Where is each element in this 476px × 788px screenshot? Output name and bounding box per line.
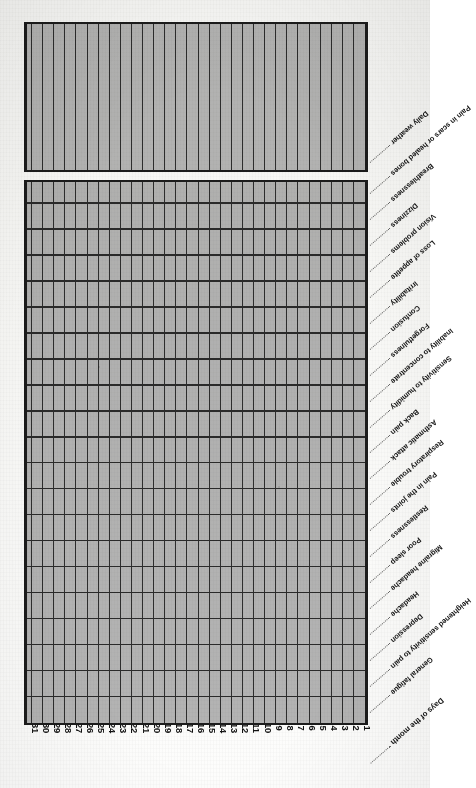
grid-column-line [98, 182, 99, 723]
grid-vertical-lines [27, 182, 365, 723]
grid-row-line [27, 202, 365, 204]
row-label-7: Pain in the joints [367, 226, 476, 535]
scan-speck [99, 367, 101, 369]
grid-row-line [27, 462, 365, 464]
grid-row-line [27, 618, 365, 620]
days-axis-title: Days of the month [367, 457, 476, 766]
grid-column-line [120, 182, 121, 723]
daily-weather-band[interactable] [24, 22, 368, 172]
grid-column-line [264, 182, 265, 723]
grid-column-line [142, 182, 143, 723]
grid-column-line [42, 182, 43, 723]
grid-column-line [64, 24, 65, 170]
grid-row-line [27, 306, 365, 308]
grid-row-line [27, 280, 365, 282]
grid-row-line [27, 566, 365, 568]
row-label-daily-weather: Daily weather [367, 0, 476, 166]
row-label-11: Sensitivity to humidity [367, 122, 476, 431]
grid-column-line [75, 182, 76, 723]
row-label-4: Migraine headache [367, 304, 476, 613]
symptom-grid-area [24, 180, 368, 725]
grid-column-line [198, 24, 199, 170]
grid-column-line [242, 182, 243, 723]
row-label-16: Loss of appetite [367, 0, 476, 301]
grid-row-line [27, 670, 365, 672]
grid-column-line [275, 24, 276, 170]
grid-row-line [27, 436, 365, 438]
grid-column-line [75, 24, 76, 170]
grid-column-line [53, 182, 54, 723]
symptom-grid[interactable] [24, 180, 368, 725]
grid-row-line [27, 410, 365, 412]
grid-column-line [209, 24, 210, 170]
grid-column-line [253, 182, 254, 723]
grid-column-line [175, 182, 176, 723]
row-label-20: Pain in scars or healed bones [367, 0, 476, 197]
grid-column-line [153, 24, 154, 170]
grid-column-line [109, 182, 110, 723]
grid-column-line [353, 24, 354, 170]
grid-horizontal-lines [27, 182, 365, 723]
grid-row-line [27, 696, 365, 698]
grid-column-line [297, 182, 298, 723]
grid-column-line [87, 24, 88, 170]
grid-row-line [27, 358, 365, 360]
grid-column-line [331, 24, 332, 170]
grid-row-line [27, 514, 365, 516]
grid-column-line [87, 182, 88, 723]
grid-row-line [27, 332, 365, 334]
grid-column-line [131, 182, 132, 723]
row-label-14: Confusion [367, 44, 476, 353]
grid-column-line [31, 24, 32, 170]
grid-column-line [175, 24, 176, 170]
grid-column-line [98, 24, 99, 170]
grid-column-line [253, 24, 254, 170]
grid-column-line [309, 182, 310, 723]
grid-column-line [42, 24, 43, 170]
row-label-19: Breathlessness [367, 0, 476, 223]
row-label-18: Dizziness [367, 0, 476, 249]
grid-column-line [242, 24, 243, 170]
row-label-0: General fatigue [367, 407, 476, 716]
row-label-13: Forgetfulness [367, 70, 476, 379]
grid-column-line [131, 24, 132, 170]
row-label-2: Depression [367, 355, 476, 664]
grid-row-line [27, 254, 365, 256]
grid-column-line [286, 182, 287, 723]
grid-column-line [198, 182, 199, 723]
grid-column-line [320, 24, 321, 170]
row-label-5: Poor sleep [367, 278, 476, 587]
grid-column-line [353, 182, 354, 723]
row-label-9: Asthmatic attack [367, 174, 476, 483]
grid-row-line [27, 228, 365, 230]
row-label-15: Irritability [367, 18, 476, 327]
row-label-12: Inability to concentrate [367, 96, 476, 405]
row-label-10: Back pain [367, 148, 476, 457]
grid-column-line [186, 24, 187, 170]
grid-column-line [109, 24, 110, 170]
grid-row-line [27, 592, 365, 594]
grid-column-line [153, 182, 154, 723]
grid-column-line [231, 182, 232, 723]
grid-column-line [342, 24, 343, 170]
grid-column-line [209, 182, 210, 723]
row-label-6: Restlessness [367, 252, 476, 561]
grid-column-line [220, 24, 221, 170]
weather-vertical-lines [27, 24, 365, 170]
grid-column-line [142, 24, 143, 170]
grid-column-line [264, 24, 265, 170]
grid-column-line [64, 182, 65, 723]
grid-column-line [53, 24, 54, 170]
grid-column-line [275, 182, 276, 723]
row-label-1: Heightened sensitivity to pain [367, 381, 476, 690]
grid-column-line [31, 182, 32, 723]
grid-column-line [164, 24, 165, 170]
row-label-8: Respiratory trouble [367, 200, 476, 509]
days-axis: 1234567891011121314151617181920212223242… [24, 728, 368, 780]
grid-column-line [342, 182, 343, 723]
grid-row-line [27, 540, 365, 542]
grid-column-line [320, 182, 321, 723]
grid-column-line [186, 182, 187, 723]
